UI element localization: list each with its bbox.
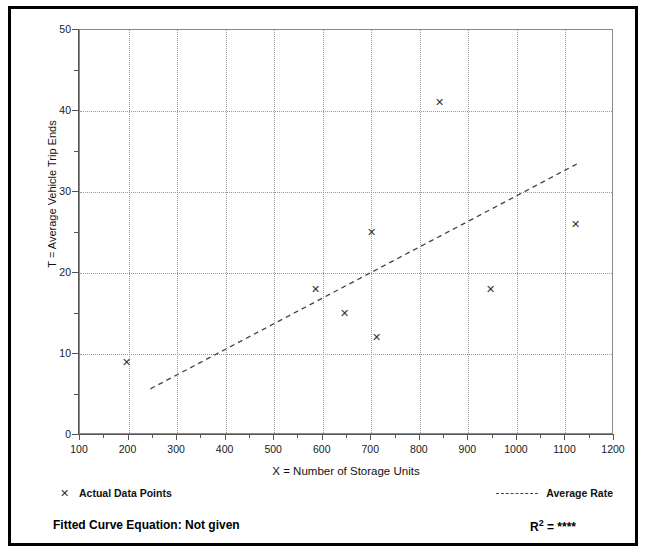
x-tick-label: 800: [397, 443, 441, 455]
data-point-marker: ✕: [339, 308, 350, 319]
y-tick-major: [72, 353, 79, 354]
footer: Fitted Curve Equation: Not given R2 = **…: [8, 518, 638, 540]
plot-area: ✕✕✕✕✕✕✕✕: [79, 29, 613, 434]
x-tick-label: 1000: [494, 443, 538, 455]
x-tick-minor: [103, 434, 104, 438]
y-tick-minor: [74, 70, 79, 71]
data-point-marker: ✕: [371, 332, 382, 343]
x-tick-major: [225, 434, 226, 440]
x-tick-label: 400: [203, 443, 247, 455]
x-tick-major: [128, 434, 129, 440]
x-tick-label: 300: [154, 443, 198, 455]
y-tick-label: 10: [31, 347, 71, 359]
y-tick-minor: [74, 151, 79, 152]
x-marker-icon: ✕: [60, 487, 69, 499]
x-tick-major: [273, 434, 274, 440]
x-tick-minor: [589, 434, 590, 438]
data-point-marker: ✕: [485, 284, 496, 295]
x-tick-minor: [346, 434, 347, 438]
gridline-vertical: [274, 30, 275, 433]
gridline-vertical: [129, 30, 130, 433]
x-tick-label: 200: [106, 443, 150, 455]
legend-label-average-rate: Average Rate: [546, 487, 613, 499]
x-tick-minor: [540, 434, 541, 438]
x-axis-title: X = Number of Storage Units: [79, 465, 613, 477]
gridline-vertical: [468, 30, 469, 433]
x-tick-label: 600: [300, 443, 344, 455]
x-tick-major: [467, 434, 468, 440]
x-tick-label: 900: [445, 443, 489, 455]
gridline-vertical: [420, 30, 421, 433]
x-tick-minor: [443, 434, 444, 438]
x-tick-minor: [200, 434, 201, 438]
r-squared-base: R: [530, 520, 539, 534]
x-tick-minor: [297, 434, 298, 438]
gridline-horizontal: [80, 111, 612, 112]
x-tick-minor: [395, 434, 396, 438]
x-tick-major: [516, 434, 517, 440]
average-rate-trendline: [80, 30, 614, 435]
chart-page: ✕✕✕✕✕✕✕✕ 01020304050 1002003004005006007…: [0, 0, 647, 554]
y-tick-major: [72, 29, 79, 30]
gridline-horizontal: [80, 354, 612, 355]
x-tick-major: [564, 434, 565, 440]
y-tick-major: [72, 272, 79, 273]
x-tick-label: 100: [57, 443, 101, 455]
x-tick-minor: [152, 434, 153, 438]
x-tick-major: [176, 434, 177, 440]
r-squared-value: R2 = ****: [530, 518, 576, 534]
x-tick-label: 1100: [542, 443, 586, 455]
r-squared-rest: = ****: [544, 520, 576, 534]
data-point-marker: ✕: [121, 357, 132, 368]
gridline-horizontal: [80, 192, 612, 193]
legend-label-data-points: Actual Data Points: [79, 487, 172, 499]
y-tick-major: [72, 434, 79, 435]
x-tick-minor: [249, 434, 250, 438]
y-axis-title: T = Average Vehicle Trip Ends: [46, 94, 58, 294]
dashed-line-icon: [496, 493, 538, 494]
legend: ✕ Actual Data Points Average Rate: [8, 487, 638, 509]
data-point-marker: ✕: [570, 219, 581, 230]
x-tick-major: [79, 434, 80, 440]
x-tick-major: [322, 434, 323, 440]
gridline-vertical: [226, 30, 227, 433]
gridline-vertical: [517, 30, 518, 433]
y-tick-minor: [74, 313, 79, 314]
data-point-marker: ✕: [310, 284, 321, 295]
x-tick-label: 1200: [591, 443, 635, 455]
data-point-marker: ✕: [366, 227, 377, 238]
x-tick-major: [370, 434, 371, 440]
gridline-vertical: [323, 30, 324, 433]
legend-item-data-points: ✕ Actual Data Points: [60, 487, 172, 499]
x-tick-label: 700: [348, 443, 392, 455]
y-tick-label: 0: [31, 428, 71, 440]
gridline-horizontal: [80, 273, 612, 274]
x-tick-minor: [492, 434, 493, 438]
x-tick-major: [613, 434, 614, 440]
y-tick-major: [72, 191, 79, 192]
y-tick-label: 50: [31, 23, 71, 35]
legend-item-average-rate: Average Rate: [496, 487, 613, 499]
gridline-vertical: [177, 30, 178, 433]
fitted-curve-equation: Fitted Curve Equation: Not given: [53, 518, 240, 532]
gridline-vertical: [565, 30, 566, 433]
y-tick-minor: [74, 394, 79, 395]
data-point-marker: ✕: [434, 97, 445, 108]
x-tick-major: [419, 434, 420, 440]
y-tick-minor: [74, 232, 79, 233]
y-tick-major: [72, 110, 79, 111]
x-tick-label: 500: [251, 443, 295, 455]
